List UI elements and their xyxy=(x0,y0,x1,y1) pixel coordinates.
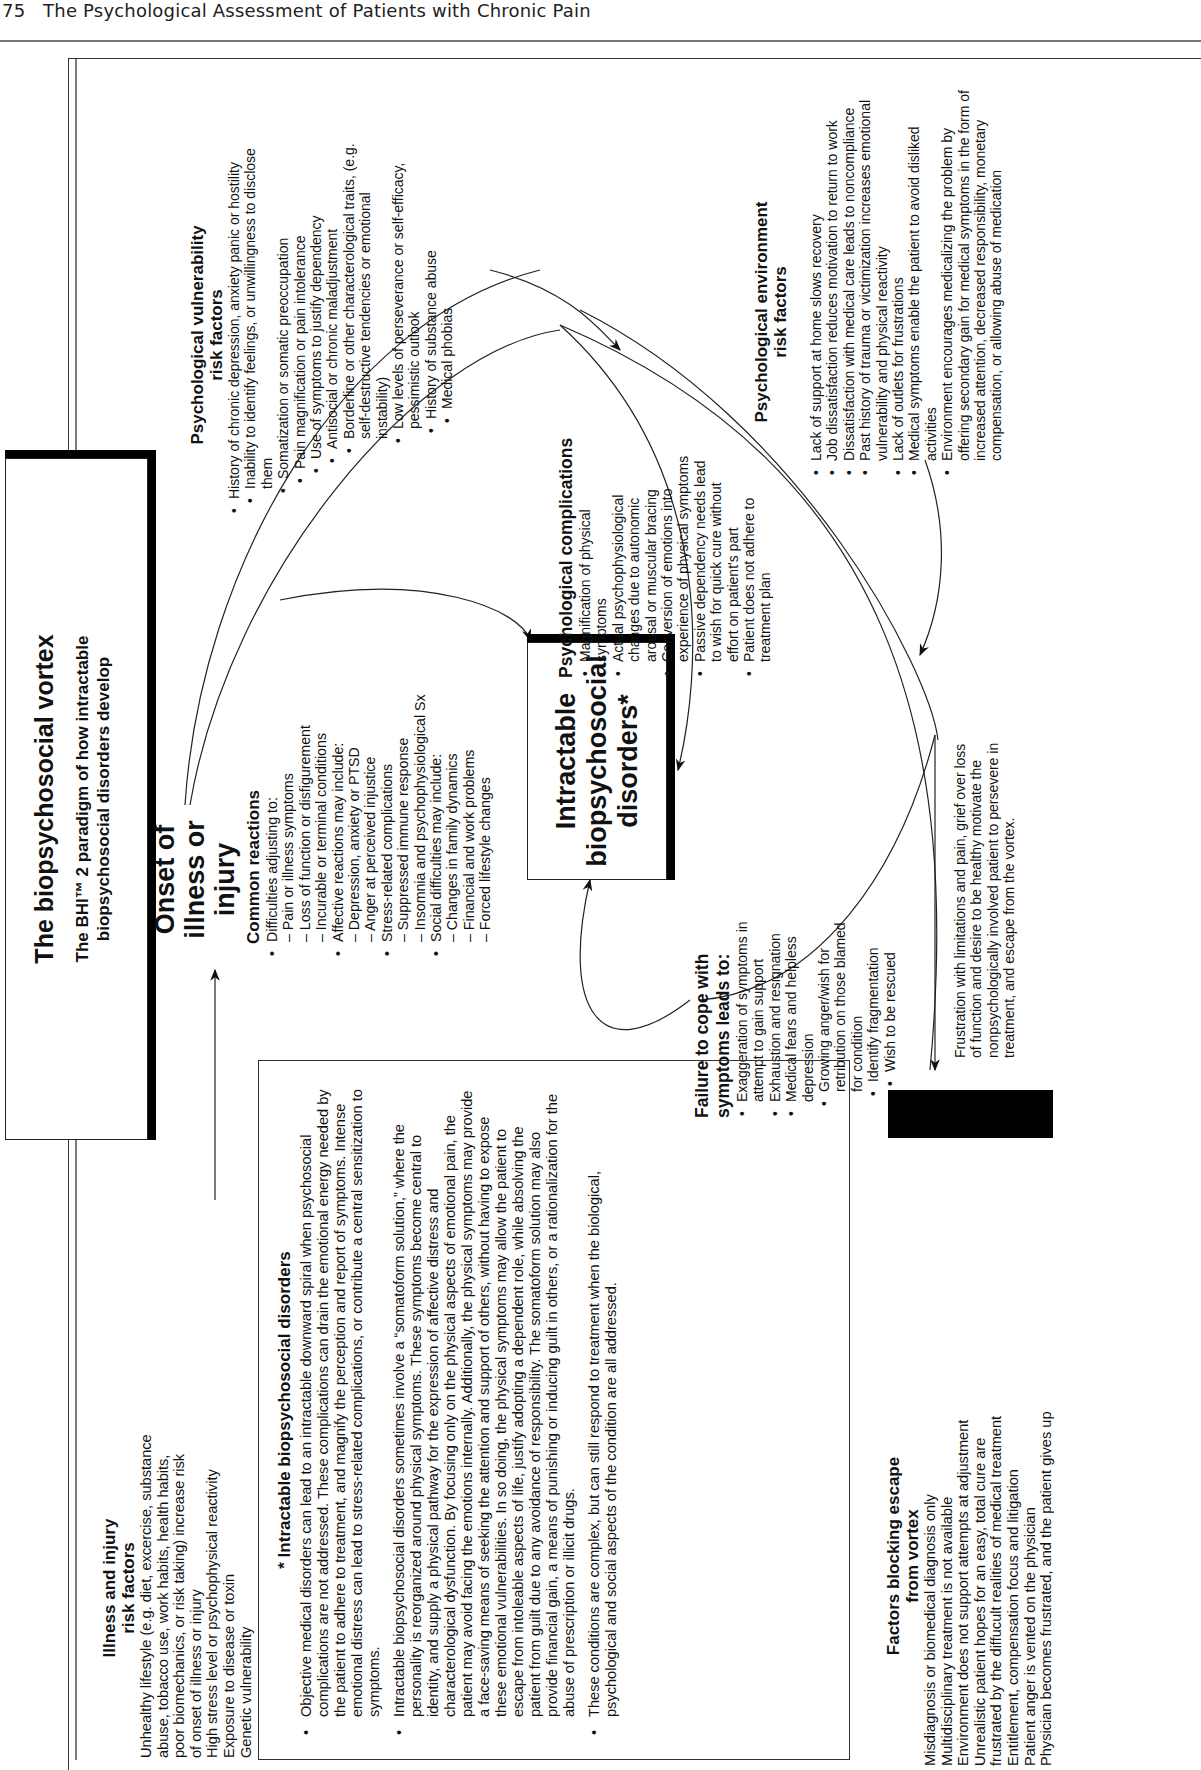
list-item: Wish to be rescued xyxy=(882,918,898,1088)
list-item: Lack of support at home slows recovery xyxy=(808,82,824,477)
figure-title: The biopsychosocial vortex xyxy=(30,459,59,1139)
onset-label: Onset of illness or injury xyxy=(150,797,240,962)
list-item: Environment encourages medicalizing the … xyxy=(939,82,1005,477)
list-item: Pain magnification or pain intolerance xyxy=(292,135,308,485)
psych-vulnerability-heading: Psychological vulnerability risk factors xyxy=(188,155,226,515)
list-item: Identify fragmentation xyxy=(865,918,881,1098)
footnote-paragraph: These conditions are complex, but can st… xyxy=(586,1083,620,1737)
psych-environment-risk-factors: Psychological environment risk factors L… xyxy=(752,67,1005,477)
escape-note: Frustration with limitations and pain, g… xyxy=(952,738,1018,1058)
illness-risk-factors: Illness and injury risk factors Unhealth… xyxy=(100,1158,254,1758)
list-item: Actual psychophysiological changes due t… xyxy=(610,448,659,678)
reaction-group: Difficulties adjusting to: – Pain or ill… xyxy=(264,578,330,958)
illness-risk-list: Unhealthy lifestyle (e.g. diet, excercis… xyxy=(138,1158,254,1758)
figure-subtitle: The BHI™ 2 paradigm of how intractable b… xyxy=(72,459,114,1139)
running-head: 75 The Psychological Assessment of Patie… xyxy=(0,0,1201,56)
list-item: Somatization or somatic preoccupation xyxy=(275,135,291,495)
common-reactions-heading: Common reactions xyxy=(244,578,264,958)
list-item: Magnification of physical symptoms xyxy=(577,448,610,678)
list-item: Use of symptoms to justify dependency xyxy=(308,135,324,475)
list-item: Conversion of emotions into experience o… xyxy=(659,448,692,678)
list-item: History of chronic depression, anxiety p… xyxy=(226,135,242,515)
footnote-paragraph: Intractable biopsychosocial disorders so… xyxy=(391,1083,578,1737)
list-item: Borderline or other characterological tr… xyxy=(341,135,390,455)
list-item: Passive dependency needs lead to wish fo… xyxy=(692,448,741,678)
common-reactions: Common reactions Difficulties adjusting … xyxy=(244,578,494,958)
reaction-group: Social difficulties may include: – Chang… xyxy=(428,578,494,958)
biopsychosocial-vortex-figure: The biopsychosocial vortex The BHI™ 2 pa… xyxy=(0,55,1201,1770)
list-item: Low levels of perseverance or self-effic… xyxy=(390,135,423,445)
redaction-bar xyxy=(888,1090,1053,1138)
list-item: Job dissatisfaction reduces motivation t… xyxy=(824,82,840,477)
list-item: Dissatisfaction with medical care leads … xyxy=(841,82,857,477)
header-rule xyxy=(0,40,1201,42)
page-header: 75 The Psychological Assessment of Patie… xyxy=(2,0,591,21)
intractable-disorders-footnote: * Intractable biopsychosocial disorders … xyxy=(258,1060,850,1760)
list-item: Antisocial or chronic maladjustment xyxy=(324,135,340,465)
list-item: Lack of outlets for frustrations xyxy=(890,82,906,477)
list-item: Medical symptoms enable the patient to a… xyxy=(906,82,939,477)
psych-complications: Psychological complications Magnificatio… xyxy=(556,298,774,678)
page-number: 75 xyxy=(2,0,25,21)
psych-complications-heading: Psychological complications xyxy=(556,298,577,678)
blocking-factors: Factors blocking escape from vortex Misd… xyxy=(884,1166,1055,1766)
list-item: History of substance abuse xyxy=(423,135,439,435)
figure-title-box: The biopsychosocial vortex The BHI™ 2 pa… xyxy=(5,458,148,1140)
reaction-group: Stress-related complications – Suppresse… xyxy=(379,578,428,958)
psych-vulnerability-risk-factors: Psychological vulnerability risk factors… xyxy=(188,75,456,515)
list-item: Patient does not adhere to treatment pla… xyxy=(741,448,774,678)
list-item: Past history of trauma or victimization … xyxy=(857,82,890,477)
psych-environment-heading: Psychological environment risk factors xyxy=(752,147,790,477)
footnote-paragraph: Objective medical disorders can lead to … xyxy=(298,1083,383,1737)
illness-risk-heading: Illness and injury risk factors xyxy=(100,1418,138,1758)
intractable-disorders-label: Intractable biopsychosocial disorders* xyxy=(551,655,644,867)
list-item: Inability to identify feelings, or unwil… xyxy=(242,135,275,505)
reaction-group: Affective reactions may include: – Depre… xyxy=(330,578,379,958)
list-item: Medical phobias xyxy=(439,135,455,425)
footnote-heading: * Intractable biopsychosocial disorders xyxy=(275,1083,294,1737)
blocking-factors-heading: Factors blocking escape from vortex xyxy=(884,1346,922,1766)
chapter-title: The Psychological Assessment of Patients… xyxy=(43,0,591,21)
